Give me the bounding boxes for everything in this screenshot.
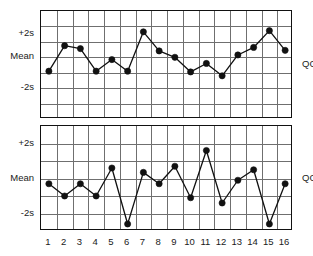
y-tick-mean: Mean — [10, 51, 34, 61]
y-tick-minus-2s: -2s — [21, 208, 34, 218]
data-point-marker — [140, 169, 146, 175]
levey-jennings-figure: +2sMean-2s QC1 +2sMean-2s QC2 1234567891… — [0, 0, 313, 256]
qc2-panel-label: QC2 — [302, 172, 313, 183]
qc1-plot-area — [40, 10, 292, 118]
qc1-panel-label: QC1 — [302, 58, 313, 69]
data-point-marker — [46, 68, 52, 74]
data-point-marker — [62, 43, 68, 49]
data-point-marker — [203, 60, 209, 66]
series-line — [49, 31, 285, 76]
data-point-marker — [140, 29, 146, 35]
data-point-marker — [77, 46, 83, 52]
data-point-marker — [93, 193, 99, 199]
data-point-marker — [77, 181, 83, 187]
qc2-series — [41, 126, 293, 231]
qc2-plot-area — [40, 125, 292, 230]
data-point-marker — [109, 165, 115, 171]
data-point-marker — [156, 48, 162, 54]
x-axis-tick-labels: 12345678910111213141516 — [40, 236, 292, 250]
data-point-marker — [172, 163, 178, 169]
data-point-marker — [109, 57, 115, 63]
data-point-marker — [251, 44, 257, 50]
qc1-series — [41, 11, 293, 119]
data-point-marker — [93, 68, 99, 74]
data-point-marker — [235, 177, 241, 183]
qc2-y-axis-labels: +2sMean-2s — [0, 125, 34, 230]
data-point-marker — [188, 195, 194, 201]
data-point-marker — [219, 73, 225, 79]
clipped-title — [120, 0, 200, 4]
y-tick-plus-2s: +2s — [18, 28, 34, 38]
data-point-marker — [188, 69, 194, 75]
data-point-marker — [251, 167, 257, 173]
data-point-marker — [282, 181, 288, 187]
x-tick-label: 16 — [273, 236, 295, 248]
y-tick-mean: Mean — [10, 173, 34, 183]
data-point-marker — [156, 181, 162, 187]
y-tick-minus-2s: -2s — [21, 82, 34, 92]
data-point-marker — [266, 221, 272, 227]
qc1-y-axis-labels: +2sMean-2s — [0, 10, 34, 118]
series-line — [49, 151, 285, 225]
data-point-marker — [235, 52, 241, 58]
data-point-marker — [62, 193, 68, 199]
data-point-marker — [172, 54, 178, 60]
data-point-marker — [219, 200, 225, 206]
data-point-marker — [46, 181, 52, 187]
data-point-marker — [203, 147, 209, 153]
data-point-marker — [282, 47, 288, 53]
data-point-marker — [266, 28, 272, 34]
data-point-marker — [125, 221, 131, 227]
y-tick-plus-2s: +2s — [18, 138, 34, 148]
data-point-marker — [125, 68, 131, 74]
